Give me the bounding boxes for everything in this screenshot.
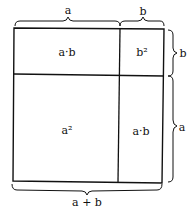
cell-top-right: b²: [136, 47, 147, 58]
brace-bottom: [12, 184, 162, 195]
brace-right-a: [168, 76, 177, 182]
right-label-a: a: [179, 122, 186, 133]
brace-right-b: [168, 30, 177, 76]
brace-top-a: [15, 17, 120, 26]
right-label-b: b: [179, 48, 186, 59]
vertical-divider: [118, 29, 120, 182]
square-diagram: [0, 0, 193, 212]
cell-bottom-left: a²: [62, 125, 73, 136]
top-label-b: b: [139, 6, 146, 17]
brace-top-b: [120, 17, 164, 26]
bottom-label: a + b: [72, 197, 102, 208]
cell-bottom-right: a·b: [132, 126, 149, 137]
horizontal-divider: [14, 74, 164, 76]
top-label-a: a: [65, 5, 72, 16]
cell-top-left: a·b: [58, 47, 75, 58]
